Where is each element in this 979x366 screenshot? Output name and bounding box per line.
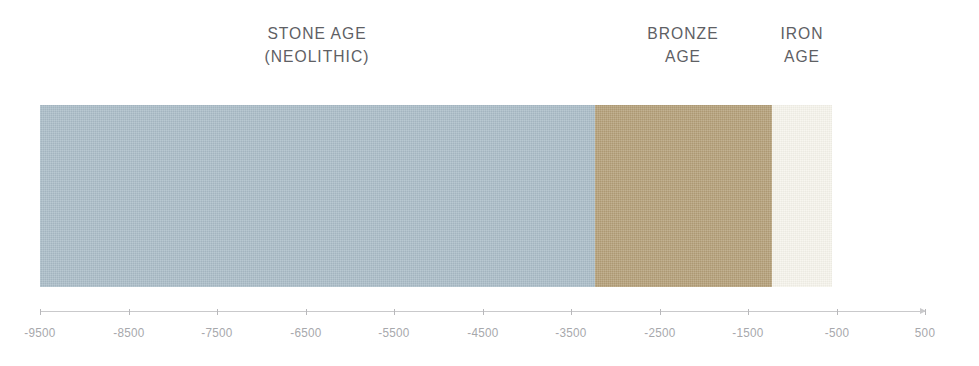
era-label-bronze-age-line1: BRONZE (619, 22, 748, 45)
axis-tick (40, 309, 41, 315)
era-label-stone-age-line1: STONE AGE (179, 22, 455, 45)
axis-tick (129, 309, 130, 315)
era-label-bronze-age-line2: AGE (619, 45, 748, 68)
axis-tick-label: -5500 (354, 325, 435, 340)
axis-tick (394, 309, 395, 315)
axis-tick (660, 309, 661, 315)
era-label-stone-age-line2: (NEOLITHIC) (179, 45, 455, 68)
axis-tick (306, 309, 307, 315)
timeline-axis: -9500-8500-7500-6500-5500-4500-3500-2500… (40, 311, 925, 312)
axis-tick (483, 309, 484, 315)
era-label-iron-age: IRON AGE (747, 22, 857, 68)
timeline-chart: STONE AGE (NEOLITHIC) BRONZE AGE IRON AG… (0, 0, 979, 366)
era-label-iron-age-line1: IRON (747, 22, 857, 45)
era-label-bronze-age: BRONZE AGE (619, 22, 748, 68)
axis-tick-label: -2500 (619, 325, 700, 340)
axis-tick-label: -500 (796, 325, 877, 340)
axis-tick (571, 309, 572, 315)
axis-tick (925, 309, 926, 315)
axis-tick (748, 309, 749, 315)
era-band-stone-age (40, 105, 595, 287)
era-band-iron-age (772, 105, 832, 287)
axis-tick (837, 309, 838, 315)
timeline-bar (40, 105, 832, 287)
axis-tick (217, 309, 218, 315)
axis-tick-label: -3500 (531, 325, 612, 340)
era-label-stone-age: STONE AGE (NEOLITHIC) (179, 22, 455, 68)
axis-tick-label: -6500 (265, 325, 346, 340)
axis-tick-label: -4500 (442, 325, 523, 340)
axis-tick-label: 500 (885, 325, 966, 340)
axis-tick-label: -1500 (708, 325, 789, 340)
era-band-bronze-age (595, 105, 772, 287)
axis-tick-label: -8500 (88, 325, 169, 340)
era-label-iron-age-line2: AGE (747, 45, 857, 68)
axis-tick-label: -9500 (0, 325, 81, 340)
axis-tick-label: -7500 (177, 325, 258, 340)
